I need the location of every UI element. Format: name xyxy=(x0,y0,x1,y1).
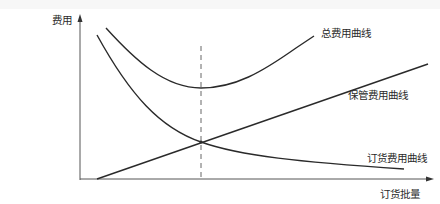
holding-cost-label: 保管费用曲线 xyxy=(348,87,408,102)
eoq-cost-diagram xyxy=(0,0,440,204)
total-cost-label: 总费用曲线 xyxy=(321,25,371,40)
total-cost-curve xyxy=(106,28,314,88)
x-axis-arrow-icon xyxy=(426,177,434,182)
y-axis-arrow-icon xyxy=(78,14,83,22)
y-axis-label: 费用 xyxy=(52,12,72,27)
x-axis-label: 订货批量 xyxy=(380,186,420,201)
ordering-cost-label: 订货费用曲线 xyxy=(367,150,427,165)
intersection-point xyxy=(199,140,202,143)
ordering-cost-curve xyxy=(97,35,404,169)
